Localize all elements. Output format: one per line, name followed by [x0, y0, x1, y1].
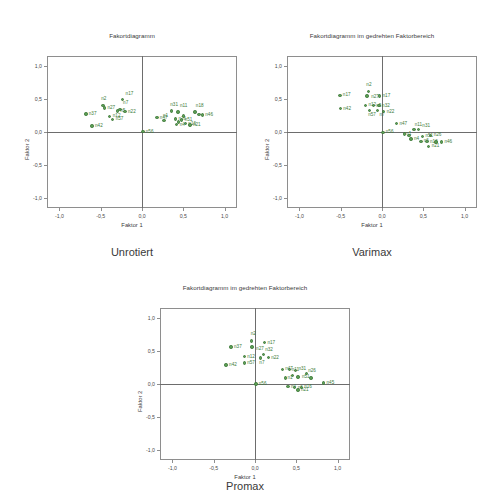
- scatter-point-label: n18: [196, 104, 204, 109]
- x-axis-tick: [423, 208, 424, 211]
- scatter-point: [409, 137, 412, 140]
- x-axis-tick: [142, 208, 143, 211]
- scatter-point-label: n2: [101, 97, 106, 102]
- y-axis-tick: [284, 198, 287, 199]
- scatter-point-label: n57: [116, 117, 124, 122]
- scatter-point: [90, 124, 93, 127]
- x-axis-tick: [172, 460, 173, 463]
- scatter-point: [176, 110, 179, 113]
- scatter-point: [419, 140, 422, 143]
- scatter-point-label: n46: [444, 140, 452, 145]
- scatter-point-label: n11: [180, 104, 187, 109]
- x-axis-tick-label: 0,5: [180, 213, 187, 219]
- chart-title-unrotated: Fakortdiagramm: [18, 32, 246, 39]
- scatter-point: [381, 131, 384, 134]
- scatter-point-label: n31: [422, 124, 430, 129]
- scatter-point-label: n45: [327, 381, 335, 386]
- y-axis-tick: [284, 66, 287, 67]
- y-axis-tick: [44, 165, 47, 166]
- y-axis-tick: [284, 99, 287, 100]
- axis-title-y-promax: Faktor 2: [137, 391, 143, 412]
- y-axis-tick: [284, 165, 287, 166]
- scatter-point-label: n42: [343, 107, 351, 112]
- x-axis-tick-label: 0,0: [138, 213, 145, 219]
- scatter-point-label: n32: [382, 104, 390, 109]
- scatter-point: [224, 363, 227, 366]
- scatter-point: [262, 353, 265, 356]
- y-axis-tick: [44, 198, 47, 199]
- scatter-point-label: n56: [259, 382, 267, 387]
- scatter-point: [243, 361, 246, 364]
- scatter-point: [141, 130, 144, 133]
- scatter-point-label: n22: [271, 356, 279, 361]
- scatter-point-label: n17: [383, 94, 391, 99]
- scatter-point: [281, 368, 284, 371]
- x-axis-tick-label: 0,5: [420, 213, 427, 219]
- y-axis-tick: [44, 99, 47, 100]
- scatter-point-label: n17: [126, 92, 134, 97]
- scatter-point-label: n32: [265, 348, 273, 353]
- y-axis-tick-label: 0,0: [138, 381, 155, 387]
- scatter-point-label: n2: [366, 83, 371, 88]
- scatter-point-label: n1: [163, 114, 168, 119]
- y-axis-tick-label: 0,5: [138, 348, 155, 354]
- plot-area-promax: -1,0-0,50,00,51,0-1,0-0,50,00,51,0n2n17n…: [160, 308, 350, 460]
- scatter-point: [229, 345, 232, 348]
- x-axis-tick: [338, 460, 339, 463]
- scatter-point: [193, 110, 196, 113]
- axis-title-x-varimax: Faktor 1: [258, 222, 486, 228]
- x-axis-tick-label: 1,0: [461, 213, 468, 219]
- y-axis-tick-label: 0,5: [25, 96, 42, 102]
- x-axis-tick-label: -1,0: [55, 213, 64, 219]
- y-axis-tick-label: -0,5: [265, 162, 282, 168]
- scatter-point-label: n47: [399, 122, 407, 127]
- scatter-point: [201, 113, 204, 116]
- scatter-point-label: n22: [387, 110, 395, 115]
- scatter-point: [440, 140, 443, 143]
- scatter-point: [188, 123, 191, 126]
- scatter-point-label: n27: [256, 347, 264, 352]
- scatter-point-label: n22: [128, 110, 136, 115]
- scatter-point-label: n7: [259, 361, 264, 366]
- x-axis-tick-label: -0,5: [96, 213, 105, 219]
- x-axis-tick-label: -1,0: [295, 213, 304, 219]
- y-axis-tick: [157, 351, 160, 352]
- scatter-point-label: n21: [432, 144, 440, 149]
- scatter-point: [103, 106, 106, 109]
- scatter-point: [412, 128, 415, 131]
- scatter-point: [425, 140, 428, 143]
- chart-panel-varimax: Fakortdiagramm im gedrehten Faktorbereic…: [258, 32, 486, 232]
- y-axis-tick: [284, 132, 287, 133]
- scatter-point: [434, 140, 437, 143]
- scatter-point-label: n17: [343, 93, 351, 98]
- scatter-point-label: n21: [193, 123, 201, 128]
- scatter-point-label: n7: [379, 113, 384, 118]
- scatter-point: [116, 109, 119, 112]
- x-axis-tick: [341, 208, 342, 211]
- y-axis-tick-label: 1,0: [265, 63, 282, 69]
- scatter-point: [338, 94, 341, 97]
- axis-title-y-unrotated: Faktor 2: [24, 139, 30, 160]
- x-axis-tick-label: 0,0: [251, 465, 258, 471]
- x-axis-tick-label: 1,0: [334, 465, 341, 471]
- scatter-point-label: n27: [107, 106, 115, 111]
- caption-varimax: Varimax: [258, 246, 486, 258]
- scatter-point: [322, 381, 325, 384]
- scatter-point: [309, 376, 312, 379]
- y-axis-tick: [44, 66, 47, 67]
- scatter-point: [296, 388, 299, 391]
- scatter-point: [378, 94, 381, 97]
- x-axis-tick: [214, 460, 215, 463]
- x-axis-tick-label: -0,5: [336, 213, 345, 219]
- x-axis-tick-label: 0,5: [293, 465, 300, 471]
- y-axis-tick: [157, 318, 160, 319]
- scatter-point: [197, 113, 200, 116]
- chart-title-promax: Fakortdiagramm im gedrehten Faktorbereic…: [131, 284, 359, 291]
- y-axis-tick: [44, 132, 47, 133]
- scatter-point-label: n7: [123, 101, 128, 106]
- x-axis-tick: [382, 208, 383, 211]
- scatter-point: [250, 345, 253, 348]
- scatter-point: [296, 375, 299, 378]
- y-axis-tick-label: 0,0: [25, 129, 42, 135]
- x-axis-tick: [59, 208, 60, 211]
